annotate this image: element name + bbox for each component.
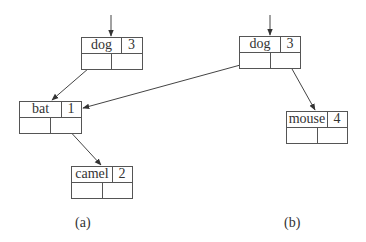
node-pointers xyxy=(240,53,300,69)
node-count: 3 xyxy=(121,38,142,53)
node-a-dog: dog 3 xyxy=(81,37,143,70)
left-pointer xyxy=(72,183,103,199)
node-b-mouse: mouse 4 xyxy=(286,111,348,144)
node-key: dog xyxy=(82,38,122,53)
right-pointer xyxy=(270,53,300,69)
caption-a: (a) xyxy=(75,215,91,231)
node-pointers xyxy=(287,128,347,144)
node-count: 2 xyxy=(112,167,132,182)
node-header: dog 3 xyxy=(82,38,142,54)
node-header: camel 2 xyxy=(72,167,132,183)
node-key: bat xyxy=(20,102,62,117)
right-pointer xyxy=(111,54,142,70)
left-pointer xyxy=(20,118,51,134)
right-pointer xyxy=(317,128,347,144)
node-pointers xyxy=(82,54,142,70)
node-count: 1 xyxy=(61,102,81,117)
left-pointer xyxy=(287,128,318,144)
node-key: mouse xyxy=(287,112,328,127)
left-pointer xyxy=(82,54,112,70)
node-a-camel: camel 2 xyxy=(71,166,133,199)
node-key: dog xyxy=(240,37,281,52)
right-pointer xyxy=(102,183,132,199)
left-pointer xyxy=(240,53,271,69)
node-header: bat 1 xyxy=(20,102,81,118)
right-pointer xyxy=(50,118,81,134)
node-a-bat: bat 1 xyxy=(19,101,82,134)
node-count: 4 xyxy=(327,112,347,127)
caption-b: (b) xyxy=(284,215,300,231)
node-pointers xyxy=(72,183,132,199)
node-header: dog 3 xyxy=(240,37,300,53)
node-key: camel xyxy=(72,167,113,182)
node-b-dog: dog 3 xyxy=(239,36,301,69)
node-count: 3 xyxy=(280,37,300,52)
node-pointers xyxy=(20,118,81,134)
node-header: mouse 4 xyxy=(287,112,347,128)
